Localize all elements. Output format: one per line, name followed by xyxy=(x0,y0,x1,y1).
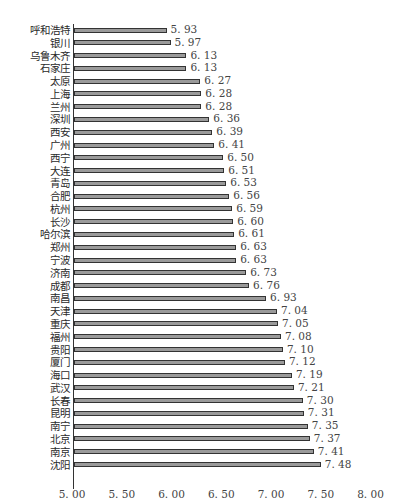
bar xyxy=(74,462,321,467)
value-label: 6. 28 xyxy=(205,100,232,112)
category-label: 哈尔滨 xyxy=(40,228,70,240)
value-label: 7. 12 xyxy=(289,355,316,367)
bar xyxy=(74,347,283,352)
category-label: 福州 xyxy=(50,331,70,343)
category-label: 深圳 xyxy=(50,113,70,125)
value-label: 6. 59 xyxy=(236,202,263,214)
category-label: 呼和浩特 xyxy=(30,24,70,36)
value-label: 6. 13 xyxy=(190,61,217,73)
bar xyxy=(74,79,200,84)
category-label: 大连 xyxy=(50,165,70,177)
bar xyxy=(74,309,277,314)
bar xyxy=(74,411,304,416)
value-label: 6. 60 xyxy=(237,215,264,227)
bar-chart: 呼和浩特5. 93银川5. 97乌鲁木齐6. 13石家庄6. 13太原6. 27… xyxy=(0,0,401,504)
bar xyxy=(74,424,308,429)
bar xyxy=(74,283,249,288)
category-label: 乌鲁木齐 xyxy=(30,50,70,62)
value-label: 7. 21 xyxy=(298,381,325,393)
x-tick-label: 8. 00 xyxy=(357,488,384,500)
value-label: 6. 56 xyxy=(233,189,260,201)
category-label: 贵阳 xyxy=(50,344,70,356)
value-label: 7. 35 xyxy=(312,419,339,431)
bar xyxy=(74,104,201,109)
bar xyxy=(74,181,226,186)
bar xyxy=(74,168,224,173)
category-label: 青岛 xyxy=(50,177,70,189)
value-label: 5. 97 xyxy=(175,36,202,48)
bar xyxy=(74,334,281,339)
value-label: 6. 39 xyxy=(216,125,243,137)
category-label: 杭州 xyxy=(50,203,70,215)
value-label: 6. 53 xyxy=(230,176,257,188)
value-label: 7. 31 xyxy=(308,406,335,418)
category-label: 太原 xyxy=(50,75,70,87)
bar xyxy=(74,53,186,58)
bar xyxy=(74,245,236,250)
category-label: 兰州 xyxy=(50,101,70,113)
bar xyxy=(74,232,234,237)
bar xyxy=(74,385,294,390)
bar xyxy=(74,436,310,441)
bar xyxy=(74,40,171,45)
value-label: 7. 10 xyxy=(287,343,314,355)
category-label: 西安 xyxy=(50,126,70,138)
category-label: 宁波 xyxy=(50,254,70,266)
value-label: 6. 13 xyxy=(190,49,217,61)
value-label: 7. 08 xyxy=(285,330,312,342)
bar xyxy=(74,117,209,122)
category-label: 北京 xyxy=(50,433,70,445)
value-label: 6. 28 xyxy=(205,87,232,99)
category-label: 海口 xyxy=(50,369,70,381)
bar xyxy=(74,155,223,160)
category-label: 南宁 xyxy=(50,420,70,432)
category-label: 上海 xyxy=(50,88,70,100)
category-label: 长春 xyxy=(50,395,70,407)
bar xyxy=(74,130,212,135)
value-label: 6. 63 xyxy=(240,240,267,252)
value-label: 6. 93 xyxy=(270,291,297,303)
value-label: 7. 41 xyxy=(318,445,345,457)
x-tick-label: 5. 50 xyxy=(108,488,135,500)
category-label: 天津 xyxy=(50,305,70,317)
category-label: 南昌 xyxy=(50,292,70,304)
category-label: 石家庄 xyxy=(40,62,70,74)
value-label: 6. 73 xyxy=(250,266,277,278)
bar xyxy=(74,449,314,454)
value-label: 6. 61 xyxy=(238,227,265,239)
value-label: 6. 51 xyxy=(228,164,255,176)
category-label: 济南 xyxy=(50,267,70,279)
category-label: 沈阳 xyxy=(50,459,70,471)
value-label: 6. 27 xyxy=(204,74,231,86)
bar xyxy=(74,219,233,224)
bar xyxy=(74,28,167,33)
bar xyxy=(74,206,232,211)
value-label: 6. 41 xyxy=(218,138,245,150)
category-label: 昆明 xyxy=(50,407,70,419)
value-label: 7. 19 xyxy=(296,368,323,380)
value-label: 6. 76 xyxy=(253,279,280,291)
category-label: 郑州 xyxy=(50,241,70,253)
bar xyxy=(74,398,303,403)
category-label: 广州 xyxy=(50,139,70,151)
x-tick-label: 7. 50 xyxy=(307,488,334,500)
value-label: 6. 63 xyxy=(240,253,267,265)
category-label: 长沙 xyxy=(50,216,70,228)
category-label: 重庆 xyxy=(50,318,70,330)
bar xyxy=(74,360,285,365)
value-label: 7. 37 xyxy=(314,432,341,444)
value-label: 7. 48 xyxy=(325,458,352,470)
value-label: 5. 93 xyxy=(171,23,198,35)
x-tick-label: 5. 00 xyxy=(59,488,86,500)
category-label: 厦门 xyxy=(50,356,70,368)
category-label: 南京 xyxy=(50,446,70,458)
value-label: 6. 36 xyxy=(213,112,240,124)
x-tick-label: 7. 00 xyxy=(258,488,285,500)
bar xyxy=(74,143,214,148)
bar xyxy=(74,296,266,301)
value-label: 6. 50 xyxy=(227,151,254,163)
bar xyxy=(74,91,201,96)
x-tick-label: 6. 50 xyxy=(208,488,235,500)
category-label: 合肥 xyxy=(50,190,70,202)
bar xyxy=(74,321,278,326)
